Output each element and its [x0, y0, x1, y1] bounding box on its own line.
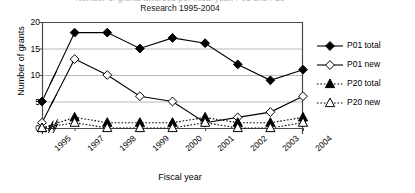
series-line [42, 59, 303, 123]
filled-triangle-marker [325, 79, 334, 88]
open-diamond-marker [266, 108, 275, 117]
filled-diamond-marker [299, 65, 308, 74]
legend-item-p20-total[interactable]: P20 total [316, 74, 415, 93]
legend-swatch-filled-diamond-icon [316, 39, 344, 53]
open-diamond-marker [326, 60, 335, 69]
filled-diamond-marker [201, 39, 210, 48]
series-p01-total [38, 28, 308, 106]
legend-swatch-open-diamond-icon [316, 58, 344, 72]
chart-figure: Number of grants awarded per fiscal year… [0, 0, 415, 193]
filled-diamond-marker [103, 28, 112, 37]
filled-diamond-marker [135, 44, 144, 53]
open-diamond-marker [299, 92, 308, 101]
open-diamond-marker [103, 71, 112, 80]
filled-diamond-marker [326, 41, 335, 50]
chart-legend: P01 totalP01 newP20 totalP20 new [316, 36, 415, 112]
filled-diamond-marker [38, 97, 47, 106]
filled-diamond-marker [70, 28, 79, 37]
filled-diamond-marker [168, 34, 177, 43]
open-diamond-marker [135, 92, 144, 101]
open-diamond-marker [168, 97, 177, 106]
legend-swatch-open-triangle-icon [316, 96, 344, 110]
legend-swatch-filled-triangle-icon [316, 77, 344, 91]
filled-diamond-marker [266, 76, 275, 85]
series-p01-new [38, 55, 308, 127]
legend-item-p01-new[interactable]: P01 new [316, 55, 415, 74]
open-triangle-marker [325, 98, 334, 107]
legend-item-p01-total[interactable]: P01 total [316, 36, 415, 55]
legend-label: P20 total [347, 79, 381, 88]
legend-label: P20 new [347, 98, 380, 107]
filled-diamond-marker [233, 60, 242, 69]
legend-label: P01 new [347, 60, 380, 69]
legend-label: P01 total [347, 41, 381, 50]
legend-item-p20-new[interactable]: P20 new [316, 93, 415, 112]
open-diamond-marker [70, 55, 79, 64]
